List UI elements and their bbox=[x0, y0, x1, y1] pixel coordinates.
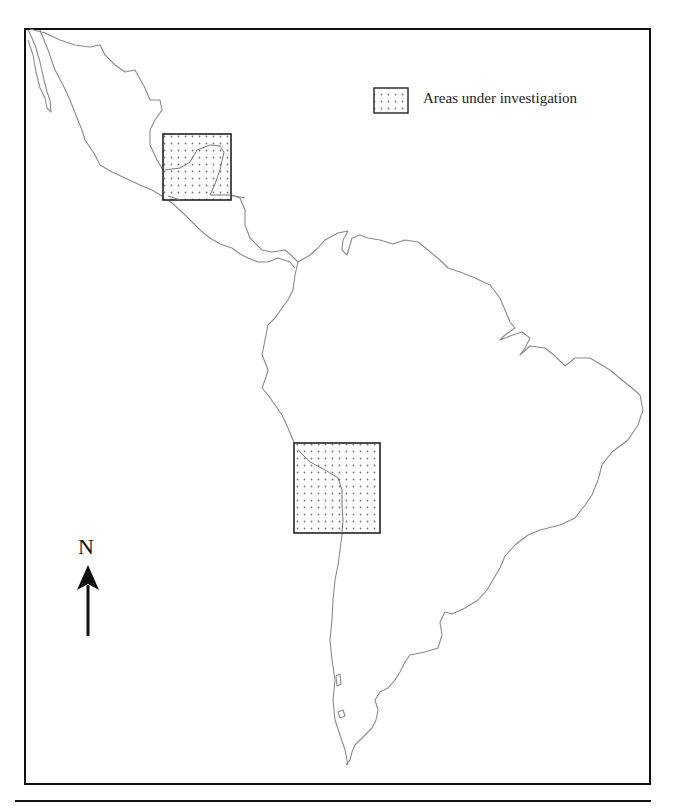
legend-label: Areas under investigation bbox=[423, 90, 577, 107]
legend-swatch bbox=[374, 88, 408, 113]
chiloe-island bbox=[336, 674, 341, 686]
coastline bbox=[28, 29, 643, 765]
southern-cone-east-coast bbox=[346, 680, 395, 765]
study-area-south bbox=[294, 443, 380, 533]
north-label: N bbox=[78, 536, 94, 558]
coast-inlet bbox=[338, 710, 345, 718]
central-america-caribbean bbox=[231, 195, 298, 262]
study-area-boxes bbox=[163, 134, 380, 533]
map-canvas bbox=[0, 0, 679, 810]
baja-california-outline bbox=[28, 30, 51, 112]
north-arrow-icon bbox=[77, 565, 99, 636]
bottom-rule bbox=[15, 800, 651, 802]
